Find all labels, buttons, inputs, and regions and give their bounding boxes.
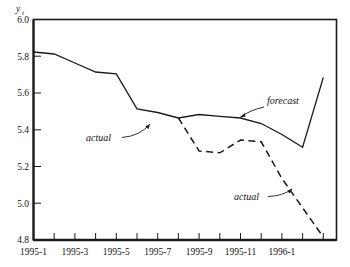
y-tick-label-6-0: 6.0 bbox=[17, 15, 29, 25]
y-tick-label-5-4: 5.4 bbox=[17, 125, 29, 135]
annotation-actual-right-leader bbox=[268, 189, 292, 197]
y-tick-label-5-2: 5.2 bbox=[17, 162, 29, 172]
annotation-forecast-label: forecast bbox=[267, 95, 299, 106]
x-tick-label-1995-5: 1995-5 bbox=[103, 247, 130, 257]
x-tick-label-1995-9: 1995-9 bbox=[186, 247, 213, 257]
x-tick-label-1996-1: 1996-1 bbox=[268, 247, 295, 257]
x-axis-tick-labels: 1995-1 1995-3 1995-5 1995-7 1995-9 1995-… bbox=[20, 247, 296, 257]
y-axis-tick-labels: 4.8 5.0 5.2 5.4 5.6 5.8 6.0 bbox=[17, 15, 29, 245]
annotation-actual-right: actual bbox=[234, 189, 293, 203]
x-tick-label-1995-7: 1995-7 bbox=[144, 247, 171, 257]
y-tick-label-5-0: 5.0 bbox=[17, 199, 29, 209]
annotation-actual-left: actual bbox=[86, 124, 150, 143]
series-line-dashed-actual bbox=[178, 118, 323, 237]
y-tick-label-5-8: 5.8 bbox=[17, 52, 29, 62]
annotation-actual-left-label: actual bbox=[86, 132, 111, 143]
annotation-forecast-arrowhead bbox=[240, 113, 246, 117]
chart-figure: 4.8 5.0 5.2 5.4 5.6 5.8 6.0 y t bbox=[0, 0, 350, 267]
y-tick-label-5-6: 5.6 bbox=[17, 88, 29, 98]
x-tick-label-1995-3: 1995-3 bbox=[61, 247, 88, 257]
annotation-actual-left-leader bbox=[122, 124, 150, 138]
annotation-actual-right-label: actual bbox=[234, 191, 259, 202]
annotation-forecast: forecast bbox=[240, 95, 299, 118]
line-chart-svg: 4.8 5.0 5.2 5.4 5.6 5.8 6.0 y t bbox=[0, 0, 350, 267]
x-tick-label-1995-11: 1995-11 bbox=[225, 247, 257, 257]
x-tick-label-1995-1: 1995-1 bbox=[20, 247, 47, 257]
y-tick-label-4-8: 4.8 bbox=[17, 235, 29, 245]
y-axis-title-main: y bbox=[15, 4, 21, 14]
